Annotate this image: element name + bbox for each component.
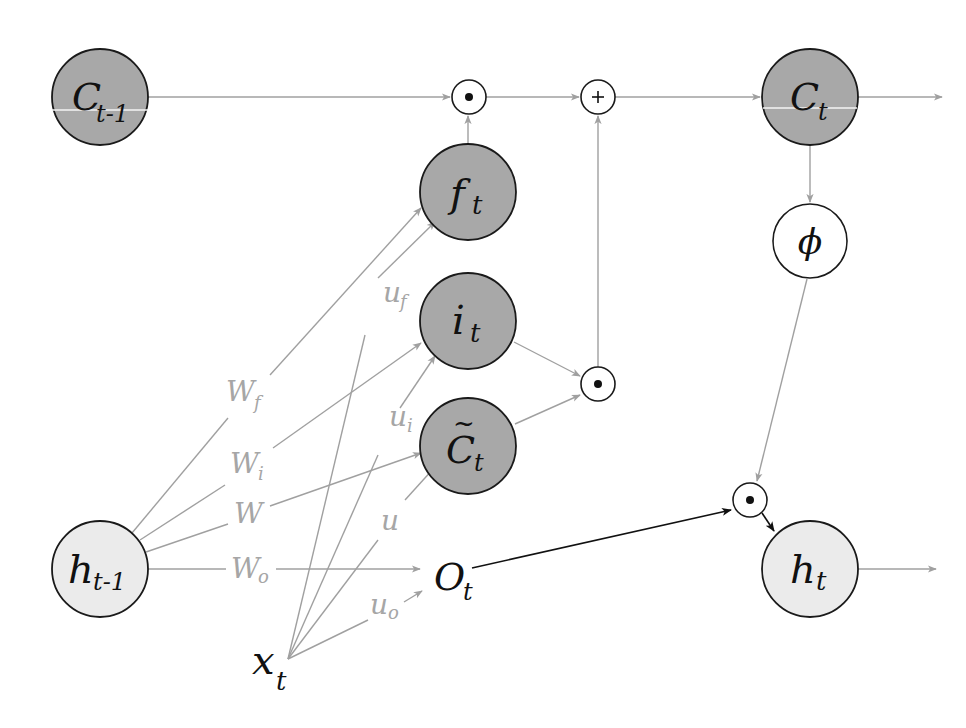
- edge-xt-uo-a: [288, 620, 368, 659]
- xt-label: x: [252, 637, 275, 683]
- node-phi: ϕ: [773, 204, 847, 278]
- svg-text:W: W: [226, 375, 257, 408]
- ft-sub: t: [472, 190, 483, 220]
- it-sub: t: [470, 318, 481, 348]
- edge-xt-uo-b: [404, 591, 422, 602]
- label-w-i: W i: [230, 447, 264, 484]
- node-mul-input: [581, 367, 615, 401]
- c-t-sub: t: [818, 98, 828, 126]
- node-mul-forget: [452, 80, 486, 114]
- label-u-i: u i: [389, 400, 413, 436]
- phi-icon: ϕ: [798, 221, 823, 262]
- weight-labels: W f W i W W o u f u i u u o: [226, 276, 413, 623]
- diagram-canvas: C t-1 C t f t i t ~ C t: [0, 0, 966, 728]
- svg-text:i: i: [407, 415, 413, 436]
- ht-sub: t: [816, 566, 827, 596]
- edge-xt-uf-b: [378, 222, 435, 278]
- black-edges: [472, 510, 774, 568]
- node-c-t: C t: [762, 49, 858, 145]
- label-u-o: u o: [370, 588, 399, 623]
- edge-it-to-mulmid: [514, 342, 580, 376]
- edge-phi-to-mulout: [757, 279, 807, 481]
- hadamard-dot-icon: [465, 93, 473, 101]
- edge-mulout-to-ht: [762, 513, 774, 531]
- ot-label: O: [434, 555, 465, 599]
- label-u-f: u f: [383, 276, 410, 312]
- node-x-t: x t: [252, 637, 287, 696]
- svg-text:o: o: [258, 566, 269, 587]
- node-input-gate: i t: [420, 273, 516, 369]
- node-add-cell: [581, 80, 615, 114]
- c-prev-sub: t-1: [96, 100, 129, 128]
- ot-sub: t: [463, 578, 473, 606]
- xt-sub: t: [276, 666, 287, 696]
- it-label: i: [452, 297, 465, 343]
- edge-xt-uf-a: [288, 335, 365, 659]
- svg-text:u: u: [381, 504, 399, 537]
- ctilde-label: C: [446, 428, 475, 472]
- svg-text:u: u: [389, 400, 407, 433]
- svg-text:o: o: [388, 602, 399, 623]
- svg-text:f: f: [398, 291, 410, 312]
- edge-hprev-w-b: [270, 453, 421, 506]
- svg-text:W: W: [230, 447, 261, 480]
- svg-text:i: i: [258, 463, 264, 484]
- hadamard-dot-icon: [746, 496, 754, 504]
- node-mul-output: [733, 483, 767, 517]
- node-c-prev: C t-1: [52, 49, 148, 145]
- label-w-o: W o: [231, 552, 269, 587]
- label-u: u: [381, 504, 399, 537]
- label-w: W: [234, 497, 265, 530]
- edge-ot-to-mulout: [472, 510, 731, 568]
- lstm-diagram: C t-1 C t f t i t ~ C t: [0, 0, 966, 728]
- svg-text:f: f: [252, 392, 264, 413]
- ht-label: h: [790, 546, 816, 592]
- edge-ctilde-to-mulmid: [515, 395, 580, 424]
- label-w-f: W f: [226, 375, 264, 413]
- node-candidate: ~ C t: [420, 398, 516, 494]
- node-forget-gate: f t: [420, 144, 516, 240]
- edge-hprev-wi-a: [140, 485, 225, 540]
- ctilde-sub: t: [474, 449, 484, 477]
- hprev-label: h: [68, 546, 94, 592]
- node-h-prev: h t-1: [52, 521, 148, 617]
- hadamard-dot-icon: [594, 380, 602, 388]
- svg-text:u: u: [383, 276, 401, 309]
- svg-text:W: W: [234, 497, 265, 530]
- hprev-sub: t-1: [93, 568, 126, 596]
- c-t-label: C: [790, 75, 819, 119]
- edge-hprev-wf-a: [132, 418, 228, 533]
- node-h-t: h t: [762, 521, 858, 617]
- node-output-gate: O t: [434, 555, 473, 606]
- svg-text:u: u: [370, 588, 388, 621]
